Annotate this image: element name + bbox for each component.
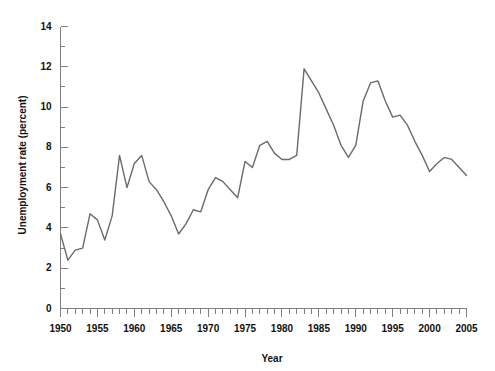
x-tick-label-1965: 1965 [160,323,183,334]
y-tick-label-8: 8 [46,141,52,152]
x-tick-label-1950: 1950 [49,323,72,334]
y-tick-label-2: 2 [46,262,52,273]
x-tick-label-1985: 1985 [308,323,331,334]
unemployment-rate-series [61,69,467,260]
y-axis: 02468101214 [40,21,67,314]
y-tick-label-10: 10 [40,101,52,112]
chart-page: 02468101214 1950195519601965197019751980… [0,0,495,371]
y-tick-label-14: 14 [40,21,52,32]
x-tick-label-1990: 1990 [345,323,368,334]
y-tick-label-4: 4 [46,222,52,233]
x-tick-label-2000: 2000 [418,323,441,334]
x-axis-title: Year [261,353,282,364]
x-tick-label-1975: 1975 [234,323,257,334]
x-tick-label-2005: 2005 [455,323,478,334]
x-axis: 1950195519601965197019751980198519901995… [49,309,478,334]
unemployment-line-chart: 02468101214 1950195519601965197019751980… [0,0,495,371]
x-tick-label-1980: 1980 [271,323,294,334]
x-tick-label-1995: 1995 [382,323,405,334]
y-tick-label-0: 0 [46,303,52,314]
x-tick-label-1970: 1970 [197,323,220,334]
x-tick-label-1955: 1955 [86,323,109,334]
y-tick-label-6: 6 [46,182,52,193]
y-axis-title: Unemployment rate (percent) [17,96,28,235]
y-tick-label-12: 12 [40,61,52,72]
x-tick-label-1960: 1960 [123,323,146,334]
